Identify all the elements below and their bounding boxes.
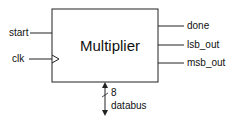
arrow-down-icon xyxy=(102,110,108,116)
output-label-lsb-out: lsb_out xyxy=(187,40,219,50)
arrow-up-icon xyxy=(102,82,108,88)
bus-width-label: 8 xyxy=(111,88,117,98)
output-label-msb-out: msb_out xyxy=(187,58,225,68)
output-label-done: done xyxy=(187,21,209,31)
bus-label: databus xyxy=(111,101,147,111)
input-label-start: start xyxy=(9,28,28,38)
block-title: Multiplier xyxy=(80,38,140,53)
input-label-clk: clk xyxy=(12,54,24,64)
